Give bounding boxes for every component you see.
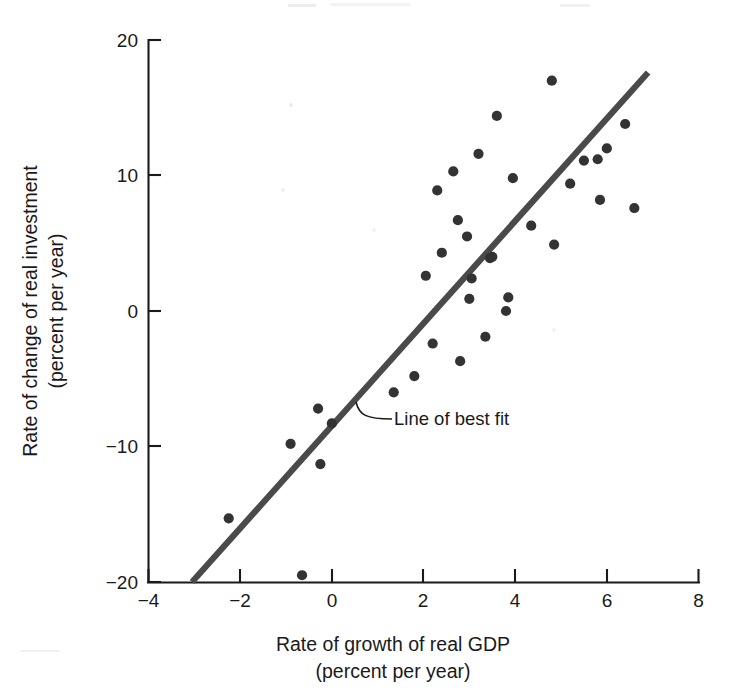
data-point	[620, 119, 630, 129]
data-point	[455, 356, 465, 366]
data-point	[629, 203, 639, 213]
data-point	[503, 292, 513, 302]
data-point	[437, 248, 447, 258]
data-point	[409, 371, 419, 381]
data-point	[492, 111, 502, 121]
data-point	[508, 173, 518, 183]
x-tick-label-0: 0	[327, 590, 338, 611]
data-point	[547, 76, 557, 86]
x-tick-label-8: 8	[693, 590, 704, 611]
x-tick-label-neg2: −2	[229, 590, 251, 611]
data-point	[565, 179, 575, 189]
data-point	[593, 154, 603, 164]
data-point	[432, 185, 442, 195]
data-point	[526, 221, 536, 231]
y-axis-title-units: (percent per year)	[45, 234, 67, 389]
x-axis-tick-labels: −4 −2 0 2 4 6 8	[138, 590, 704, 611]
scatter-plot-svg: 20 10 0 −10 −20 −4 −2 0 2 4 6 8 Line of …	[0, 0, 734, 697]
data-point	[428, 338, 438, 348]
data-point	[285, 439, 295, 449]
data-point	[389, 387, 399, 397]
data-point	[453, 215, 463, 225]
data-point	[549, 240, 559, 250]
data-point	[327, 418, 337, 428]
x-tick-label-6: 6	[602, 590, 613, 611]
annotation-leader-line	[356, 402, 392, 419]
y-tick-label-0: 0	[127, 301, 138, 322]
y-axis-title-group: Rate of change of real investment (perce…	[19, 165, 67, 457]
annotation-label: Line of best fit	[394, 408, 509, 429]
y-tick-label-neg10: −10	[106, 436, 138, 457]
best-fit-line-segment	[192, 73, 648, 582]
x-axis-title-group: Rate of growth of real GDP (percent per …	[276, 633, 510, 682]
y-tick-label-10: 10	[117, 165, 138, 186]
data-point	[421, 271, 431, 281]
data-point	[464, 294, 474, 304]
data-point	[224, 513, 234, 523]
data-point	[602, 143, 612, 153]
data-point	[480, 332, 490, 342]
data-point	[462, 231, 472, 241]
x-axis-title-units: (percent per year)	[316, 660, 471, 682]
data-point	[595, 195, 605, 205]
x-tick-label-neg4: −4	[138, 590, 160, 611]
data-point	[467, 273, 477, 283]
data-point	[448, 166, 458, 176]
x-tick-label-4: 4	[510, 590, 521, 611]
axes	[148, 40, 699, 583]
line-of-best-fit	[192, 73, 648, 582]
x-axis-title: Rate of growth of real GDP	[276, 633, 510, 655]
data-point	[501, 306, 511, 316]
y-axis-ticks	[148, 40, 161, 582]
y-tick-label-neg20: −20	[106, 572, 138, 593]
x-axis-ticks	[149, 569, 699, 582]
data-point	[579, 155, 589, 165]
chart-figure: 20 10 0 −10 −20 −4 −2 0 2 4 6 8 Line of …	[0, 0, 734, 697]
y-axis-title: Rate of change of real investment	[19, 165, 41, 457]
page-scan-artifacts	[20, 3, 590, 652]
data-point	[315, 459, 325, 469]
data-point	[313, 403, 323, 413]
annotation-line-of-best-fit: Line of best fit	[356, 402, 509, 429]
y-tick-label-20: 20	[117, 30, 138, 51]
data-point	[487, 252, 497, 262]
x-tick-label-2: 2	[418, 590, 429, 611]
data-point	[473, 149, 483, 159]
data-point	[297, 570, 307, 580]
y-axis-tick-labels: 20 10 0 −10 −20	[106, 30, 138, 593]
